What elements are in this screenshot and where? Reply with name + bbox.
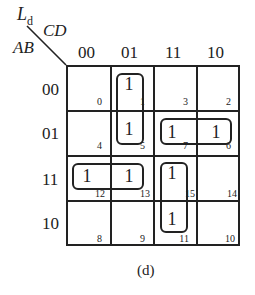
row-header-01: 01 (42, 124, 59, 144)
cell-index-3: 3 (166, 96, 188, 107)
cell-index-0: 0 (80, 96, 102, 107)
cell-index-11: 11 (167, 233, 189, 244)
corner-diagonal (0, 0, 70, 70)
cell-index-4: 4 (80, 140, 102, 151)
group-loop-m15-m11 (160, 162, 188, 233)
grid-line (68, 200, 238, 202)
group-loop-m1-m5 (116, 73, 144, 145)
cell-index-2: 2 (209, 96, 231, 107)
column-header-00: 00 (78, 43, 95, 63)
column-header-01: 01 (121, 43, 138, 63)
group-loop-m7-m6 (160, 118, 232, 145)
figure-caption: (d) (137, 262, 155, 279)
row-header-10: 10 (42, 214, 59, 234)
cell-index-9: 9 (123, 233, 145, 244)
cell-index-10: 10 (213, 233, 235, 244)
row-header-00: 00 (42, 80, 59, 100)
column-header-11: 11 (165, 43, 181, 63)
karnaugh-map-grid (66, 65, 240, 246)
cell-index-8: 8 (80, 233, 102, 244)
row-header-11: 11 (42, 170, 58, 190)
cell-index-14: 14 (215, 188, 237, 199)
column-header-10: 10 (207, 43, 224, 63)
grid-line (68, 155, 238, 157)
grid-line (68, 110, 238, 112)
group-loop-m12-m13 (72, 163, 144, 190)
